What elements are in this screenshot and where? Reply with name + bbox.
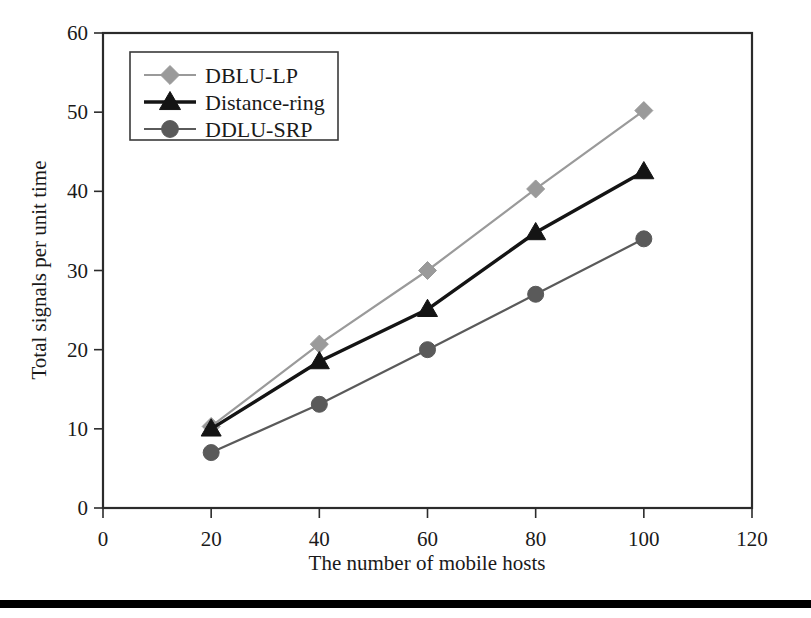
y-axis-title: Total signals per unit time [27,161,51,380]
y-tick-label: 10 [67,417,88,441]
y-tick-label: 20 [67,338,88,362]
x-tick-label: 60 [417,527,438,551]
x-tick-label: 0 [98,527,109,551]
data-point-triangle [309,352,329,369]
y-tick-label: 60 [67,21,88,45]
x-tick-label: 100 [628,527,660,551]
y-tick-label: 30 [67,259,88,283]
x-tick-label: 80 [525,527,546,551]
y-tick-label: 50 [67,100,88,124]
y-axis-tick-labels: 0102030405060 [67,21,88,520]
data-point-triangle [526,223,546,240]
y-tick-label: 0 [78,496,89,520]
data-point-circle [162,121,179,138]
line-chart: 0102030405060 020406080100120 The number… [0,0,811,618]
data-point-circle [528,286,544,302]
x-axis-ticks [103,508,752,518]
data-point-circle [311,396,327,412]
series-distance-ring [201,162,654,436]
y-tick-label: 40 [67,179,88,203]
data-series-layer [201,102,654,461]
x-tick-label: 20 [201,527,222,551]
x-tick-label: 120 [736,527,768,551]
data-point-diamond [527,180,545,198]
legend-label: Distance-ring [205,90,325,115]
data-point-triangle [418,299,438,316]
chart-legend: DBLU-LPDistance-ringDDLU-SRP [130,52,338,142]
page-footer-rule [0,600,811,608]
data-point-diamond [310,335,328,353]
legend-items: DBLU-LPDistance-ringDDLU-SRP [144,63,325,142]
data-point-circle [636,231,652,247]
y-axis-ticks [94,33,103,508]
legend-label: DBLU-LP [205,63,298,88]
x-axis-title: The number of mobile hosts [309,551,546,575]
data-point-diamond [635,102,653,120]
legend-label: DDLU-SRP [205,117,313,142]
data-point-circle [203,445,219,461]
data-point-diamond [419,262,437,280]
x-axis-tick-labels: 020406080100120 [98,527,768,551]
figure-container: 0102030405060 020406080100120 The number… [0,0,811,618]
x-tick-label: 40 [309,527,330,551]
data-point-circle [420,342,436,358]
data-point-triangle [634,162,654,179]
